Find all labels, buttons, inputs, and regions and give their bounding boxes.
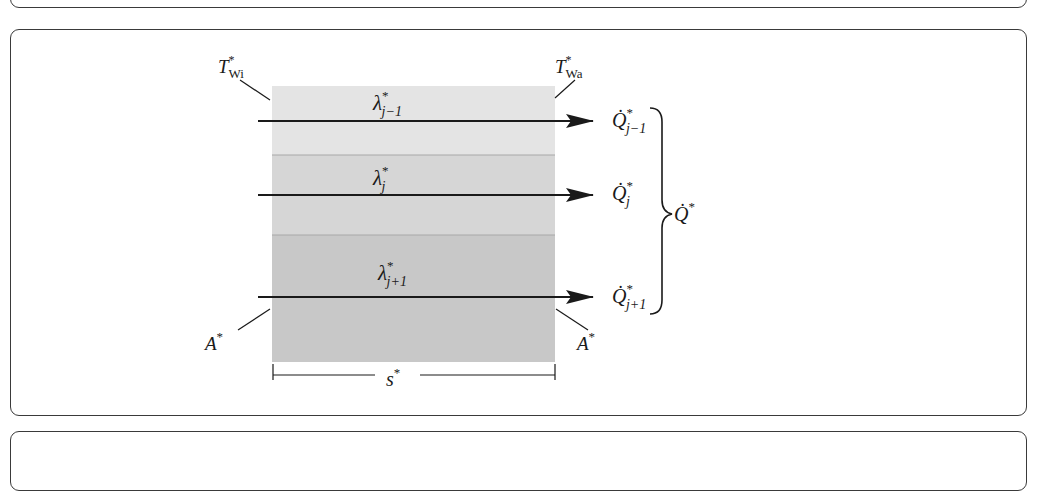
label-q-j-minus-1: Q̇*j−1	[612, 105, 646, 136]
leader-t-inner	[240, 80, 270, 100]
leader-area-right	[556, 309, 588, 330]
next-panel-frame	[10, 431, 1027, 491]
label-area-right: A*	[575, 329, 595, 354]
label-thickness: s*	[386, 365, 400, 390]
label-q-j: Q̇*j	[612, 178, 633, 209]
leader-area-left	[238, 309, 270, 330]
label-t-inner: T*Wi	[218, 53, 244, 81]
layer-j-plus-1	[272, 235, 555, 362]
wall-layers	[272, 86, 555, 362]
label-t-outer: T*Wa	[555, 53, 583, 81]
label-area-left: A*	[203, 329, 223, 354]
label-q-j-plus-1: Q̇*j+1	[612, 281, 646, 312]
label-q-total: Q̇*	[674, 199, 695, 225]
total-heat-brace	[650, 108, 672, 314]
leader-t-outer	[555, 80, 575, 98]
thickness-dimension	[273, 364, 555, 380]
